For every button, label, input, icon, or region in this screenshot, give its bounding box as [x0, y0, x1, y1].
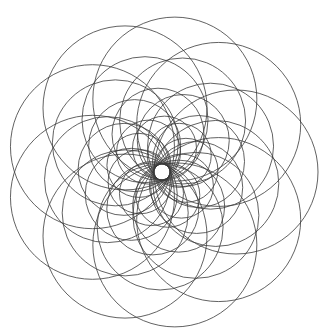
background: [0, 0, 331, 335]
spirograph-drawing: [0, 0, 331, 335]
